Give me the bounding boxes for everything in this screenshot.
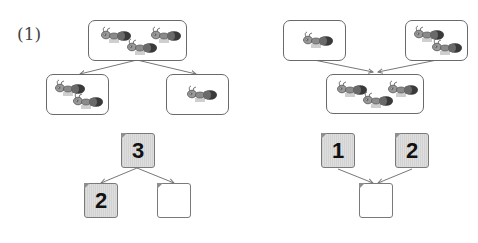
left-number-bottom-left-box: 2 bbox=[84, 183, 118, 218]
right-number-top-right-box: 2 bbox=[395, 133, 429, 168]
left-bottom-left-picture-box bbox=[46, 74, 109, 115]
ant-icon bbox=[301, 31, 335, 51]
ant-icon bbox=[430, 38, 464, 58]
number-value: 3 bbox=[132, 138, 144, 164]
number-value: 2 bbox=[95, 188, 107, 214]
right-number-top-left-box: 1 bbox=[321, 133, 355, 168]
right-top-left-picture-box bbox=[283, 20, 346, 61]
ant-icon bbox=[361, 91, 395, 111]
left-bottom-right-picture-box bbox=[166, 74, 229, 115]
right-top-right-picture-box bbox=[405, 20, 468, 61]
number-value: 2 bbox=[406, 138, 418, 164]
left-top-picture-box bbox=[88, 20, 187, 61]
left-number-answer-box[interactable] bbox=[157, 183, 191, 218]
ant-icon bbox=[125, 38, 159, 58]
right-bottom-picture-box bbox=[326, 74, 424, 114]
ant-icon bbox=[185, 85, 219, 105]
number-value: 1 bbox=[332, 138, 344, 164]
ant-icon bbox=[71, 92, 105, 112]
left-number-top-box: 3 bbox=[121, 133, 155, 168]
right-number-answer-box[interactable] bbox=[359, 183, 393, 218]
